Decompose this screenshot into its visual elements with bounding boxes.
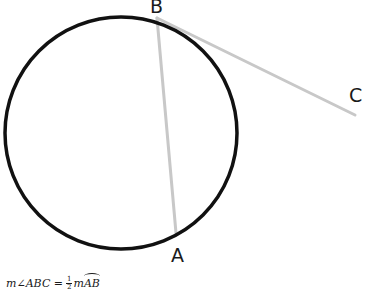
point-label-a: A — [171, 244, 184, 266]
circle — [5, 17, 237, 249]
fraction-one-half: 1 2 — [66, 276, 72, 291]
point-label-c: C — [349, 84, 362, 106]
chord-ba — [157, 18, 176, 233]
formula-lhs: m∠ABC = — [6, 277, 63, 290]
geometry-diagram: B A C — [0, 0, 365, 297]
point-label-b: B — [150, 0, 163, 17]
arc-ab-notation: AB — [84, 277, 100, 290]
fraction-denominator: 2 — [67, 284, 71, 291]
tangent-bc — [157, 18, 355, 115]
formula-rhs-prefix: m — [73, 277, 83, 290]
angle-formula: m∠ABC = 1 2 m AB — [6, 276, 100, 291]
